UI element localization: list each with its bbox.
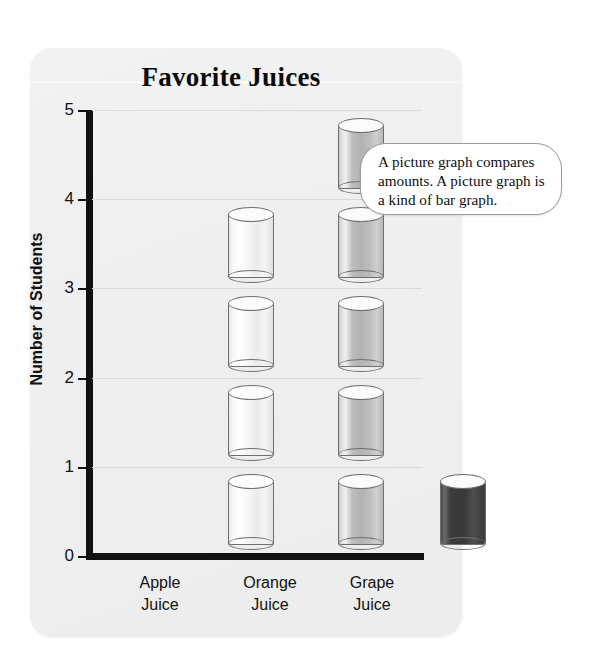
glass-rim (228, 296, 274, 311)
glass-column-1 (223, 110, 281, 560)
glass-body (338, 481, 384, 545)
glass-base (228, 448, 274, 461)
glass-body (228, 303, 274, 367)
callout-bubble: A picture graph compares amounts. A pict… (360, 143, 562, 215)
glass-body (228, 392, 274, 456)
glass-base (440, 537, 486, 550)
glass-body (440, 481, 486, 545)
category-label-line: Orange (220, 572, 320, 594)
glass-body (228, 214, 274, 278)
x-axis-category-label-1: AppleJuice (110, 572, 210, 616)
y-tick-label-4: 4 (48, 189, 74, 209)
glass-fill (229, 304, 273, 366)
glass-fill (229, 393, 273, 455)
glass-body (338, 214, 384, 278)
glass-base (338, 537, 384, 550)
y-tick-mark-0 (78, 556, 87, 558)
juice-glass-icon (338, 385, 386, 463)
y-tick-mark-5 (78, 110, 87, 112)
juice-glass-icon (228, 474, 276, 552)
y-tick-label-0: 0 (48, 546, 74, 566)
glass-base (228, 537, 274, 550)
glass-rim (338, 296, 384, 311)
category-label-line: Grape (322, 572, 422, 594)
glass-base (338, 448, 384, 461)
category-label-line: Juice (322, 594, 422, 616)
glass-fill (339, 482, 383, 544)
glass-fill (339, 304, 383, 366)
glass-base (338, 359, 384, 372)
juice-glass-icon (338, 296, 386, 374)
juice-glass-icon (228, 296, 276, 374)
y-tick-mark-1 (78, 467, 87, 469)
x-axis-category-label-2: OrangeJuice (220, 572, 320, 616)
glass-body (338, 392, 384, 456)
y-tick-label-3: 3 (48, 278, 74, 298)
glass-base (338, 270, 384, 283)
callout-text: A picture graph compares amounts. A pict… (378, 152, 550, 209)
glass-base (228, 359, 274, 372)
juice-glass-icon (338, 474, 386, 552)
glass-fill (339, 215, 383, 277)
juice-glass-icon (440, 474, 488, 552)
glass-fill (229, 482, 273, 544)
y-tick-mark-3 (78, 288, 87, 290)
category-label-line: Juice (110, 594, 210, 616)
x-axis-category-label-3: GrapeJuice (322, 572, 422, 616)
glass-rim (228, 207, 274, 222)
y-axis-title: Number of Students (28, 214, 46, 404)
glass-body (228, 481, 274, 545)
juice-glass-icon (338, 207, 386, 285)
y-tick-label-5: 5 (48, 100, 74, 120)
glass-rim (338, 118, 384, 133)
y-tick-label-2: 2 (48, 368, 74, 388)
glass-fill (441, 482, 485, 544)
y-tick-mark-4 (78, 199, 87, 201)
category-label-line: Apple (110, 572, 210, 594)
y-tick-label-1: 1 (48, 457, 74, 477)
glass-fill (339, 393, 383, 455)
juice-glass-icon (228, 385, 276, 463)
glass-base (228, 270, 274, 283)
category-label-line: Juice (220, 594, 320, 616)
juice-glass-icon (228, 207, 276, 285)
y-tick-mark-2 (78, 378, 87, 380)
glass-body (338, 303, 384, 367)
glass-fill (229, 215, 273, 277)
